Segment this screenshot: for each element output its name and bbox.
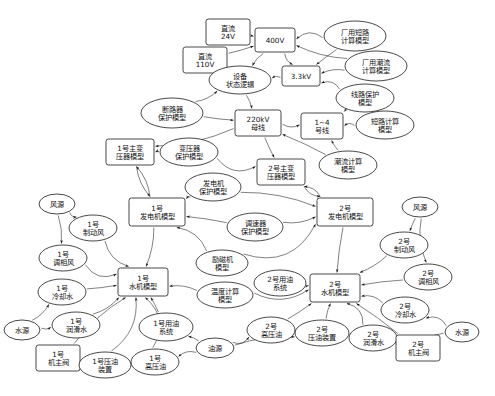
node-label: 风源	[50, 200, 64, 209]
node-cool1[interactable]: 1号冷却水	[38, 279, 86, 305]
node-wind_src1[interactable]: 风源	[39, 194, 75, 214]
edge-gen1-to-mtr1	[137, 167, 151, 197]
node-label: 变压器保护模型	[175, 144, 203, 161]
node-phase1[interactable]: 1号调相风	[39, 245, 87, 271]
edge-flow_cal-to-line14	[332, 141, 339, 151]
edge-gen_prot-to-gen2	[241, 192, 316, 206]
node-gov_prot[interactable]: 调速器保护模型	[227, 213, 283, 241]
edge-oil_src-to-hpoil2	[233, 337, 249, 343]
node-brake1[interactable]: 1号制动风	[69, 215, 117, 241]
edge-mtr1-to-gen1	[137, 167, 151, 197]
node-label: 3.3kV	[291, 72, 312, 81]
edge-gov_prot-to-gen2	[283, 217, 315, 223]
node-lub2[interactable]: 2号润滑水	[349, 325, 397, 351]
node-exc_model[interactable]: 励磁机模型	[196, 250, 248, 276]
node-cool2[interactable]: 2号冷却水	[381, 297, 429, 323]
edge-wsrc1-to-lub1	[41, 327, 51, 329]
edge-cool1-to-hyd1	[87, 285, 117, 289]
edge-fy_flow-to-kv33	[322, 70, 345, 74]
node-hpoil2[interactable]: 2号高压油	[247, 317, 295, 343]
node-bus220[interactable]: 220kV母线	[235, 110, 281, 136]
node-label: 调速器保护模型	[241, 219, 269, 236]
edge-gen2-to-mtr2	[304, 187, 320, 197]
node-wind_src2[interactable]: 风源	[402, 197, 438, 217]
node-devlogic[interactable]: 设备状态逻辑	[209, 66, 271, 94]
diagram-canvas: 直流24V直流110V400V3.3kV设备状态逻辑厂用短路计算模型厂用潮流计算…	[0, 0, 495, 396]
edge-v400-to-devlogic	[253, 54, 264, 66]
node-tr_prot[interactable]: 变压器保护模型	[160, 138, 218, 166]
node-label: 1~4号线	[314, 118, 330, 135]
node-temp_cal[interactable]: 温度计算模型	[197, 282, 253, 308]
node-label: 水源	[15, 326, 29, 335]
node-flow_cal[interactable]: 潮流计算模型	[319, 151, 377, 179]
edge-phase2-to-hyd2	[362, 280, 404, 285]
node-lub1[interactable]: 1号润滑水	[52, 312, 100, 338]
node-oilsys1[interactable]: 1号用油系统	[139, 313, 193, 341]
edge-lub1-to-hyd1	[93, 298, 119, 315]
node-label: 直流110V	[196, 52, 215, 69]
edge-hpoil2-to-hyd2	[288, 304, 312, 320]
node-hyd1[interactable]: 1号水机模型	[118, 268, 168, 296]
node-gen_prot[interactable]: 发电机保护模型	[185, 173, 241, 201]
edge-v400-to-kv33	[285, 54, 293, 65]
node-hpoil1[interactable]: 1号高压油	[131, 349, 179, 375]
node-label: 直流24V	[221, 24, 235, 41]
node-fy_short[interactable]: 厂用短路计算模型	[324, 21, 386, 51]
edge-mtr2-to-gen2	[304, 187, 320, 197]
node-press1[interactable]: 1号压油装置	[79, 352, 131, 378]
node-mvalve2[interactable]: 2号机主阀	[396, 335, 440, 361]
node-mtr2[interactable]: 2号主变压器模型	[257, 159, 305, 185]
edge-press2-to-hyd2	[326, 304, 330, 319]
node-phase2[interactable]: 2号调相风	[404, 264, 452, 290]
node-kv33[interactable]: 3.3kV	[282, 66, 320, 86]
node-v400[interactable]: 400V	[255, 28, 295, 52]
node-short_cal[interactable]: 短路计算模型	[356, 111, 414, 139]
edge-fy_short-to-v400	[297, 33, 323, 39]
edge-temp_cal-to-hyd1	[170, 286, 197, 291]
node-oil_src[interactable]: 油源	[196, 338, 234, 358]
node-dc24[interactable]: 直流24V	[206, 19, 250, 45]
node-brake2[interactable]: 2号制动风	[380, 232, 428, 258]
node-label: 水源	[455, 328, 469, 337]
edge-exc_model-to-gen1	[177, 228, 207, 252]
node-label: 1号主变压器模型	[116, 144, 144, 161]
node-press2[interactable]: 2号压油装置	[295, 320, 349, 346]
node-label: 厂用短路计算模型	[341, 28, 369, 45]
node-label: 发电机保护模型	[199, 179, 227, 196]
edge-phase1-to-hyd1	[86, 265, 117, 277]
edge-lub2-to-hyd2	[347, 304, 363, 325]
edge-bus220-to-mtr2	[265, 138, 274, 158]
edge-wind_src1-to-brake1	[70, 213, 77, 217]
node-hyd2[interactable]: 2号水机模型	[310, 274, 360, 302]
node-fy_flow[interactable]: 厂用潮流计算模型	[345, 51, 407, 81]
edge-dc110-to-v400	[229, 46, 254, 53]
node-brk_prot[interactable]: 断路器保护模型	[141, 98, 203, 128]
node-label: 厂用潮流计算模型	[362, 58, 390, 75]
node-gen1[interactable]: 1号发电机模型	[129, 198, 185, 226]
edge-wind_src1-to-phase1	[58, 216, 61, 244]
edge-line_prot-to-line14	[344, 110, 346, 111]
edge-gen_prot-to-gen1	[187, 197, 191, 199]
node-wsrc2[interactable]: 水源	[445, 322, 479, 342]
node-line14[interactable]: 1~4号线	[301, 113, 343, 139]
node-label: 油源	[208, 344, 222, 353]
edge-devlogic-to-bus220	[246, 95, 252, 108]
node-label: 400V	[266, 36, 285, 45]
node-layer: 直流24V直流110V400V3.3kV设备状态逻辑厂用短路计算模型厂用潮流计算…	[4, 19, 479, 378]
edge-tr_prot-to-mtr2	[217, 158, 256, 171]
node-oilsys2[interactable]: 2号用油系统	[254, 270, 306, 296]
edge-line_prot-to-kv33	[322, 82, 340, 90]
node-label: 断路器保护模型	[158, 105, 186, 122]
edge-wind_src2-to-brake2	[410, 218, 415, 231]
edge-gen1-to-hyd1	[146, 228, 154, 267]
node-line_prot[interactable]: 线路保护模型	[336, 84, 394, 112]
node-label: 风源	[413, 203, 427, 212]
node-mvalve1[interactable]: 1号机主阀	[36, 345, 80, 371]
node-gen2[interactable]: 2号发电机模型	[317, 198, 373, 226]
node-wsrc1[interactable]: 水源	[4, 320, 40, 340]
edge-cool2-to-hyd2	[362, 296, 383, 303]
node-mtr1[interactable]: 1号主变压器模型	[106, 139, 154, 165]
edge-gen2-to-hyd2	[337, 228, 343, 273]
edge-oil_src-to-hpoil1	[179, 352, 197, 357]
edge-brk_prot-to-bus220	[204, 117, 234, 121]
